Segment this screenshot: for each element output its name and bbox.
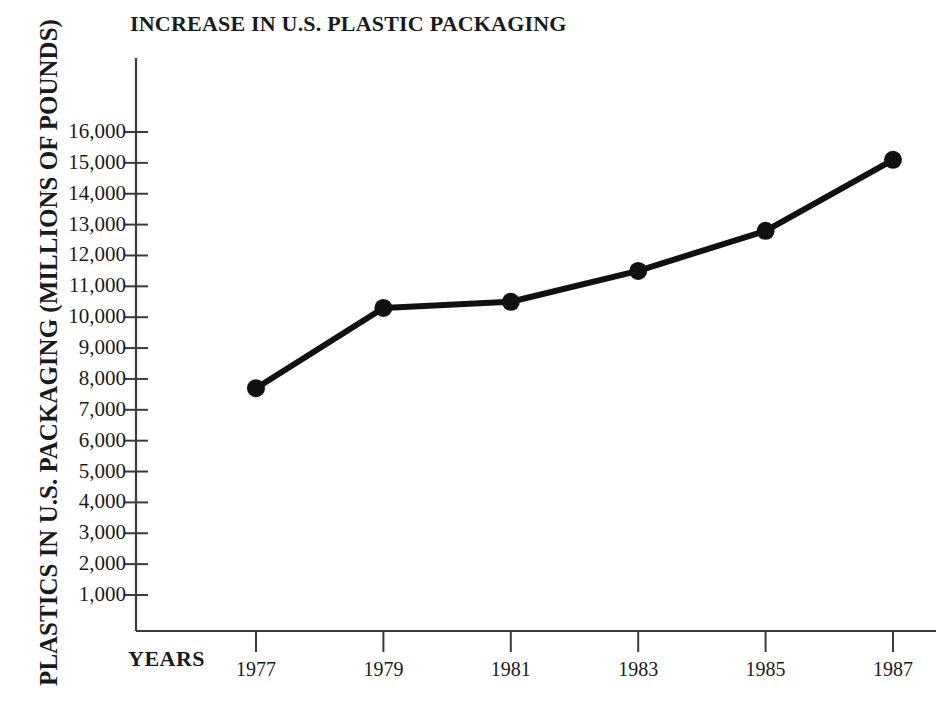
x-axis-title: YEARS [128,648,205,670]
x-tick-label: 1985 [721,659,811,679]
plastic-packaging-line-chart: INCREASE IN U.S. PLASTIC PACKAGING PLAST… [0,0,936,701]
x-tick-label: 1977 [211,659,301,679]
x-tick-label: 1979 [338,659,428,679]
x-axis-tick-labels: 197719791981198319851987 [0,0,936,701]
x-tick-label: 1981 [466,659,556,679]
x-tick-label: 1983 [593,659,683,679]
x-tick-label: 1987 [848,659,936,679]
